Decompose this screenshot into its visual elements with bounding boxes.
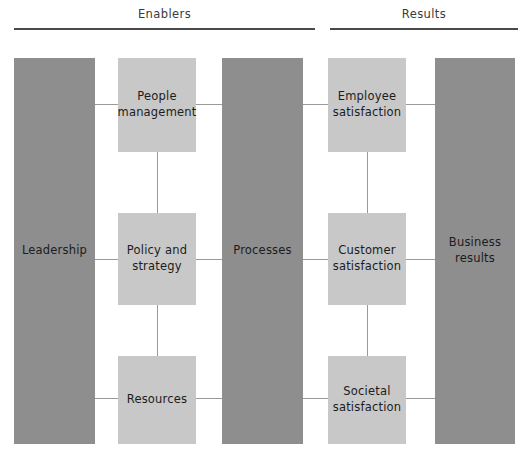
connector-societal-satisfaction-to-business-results: [406, 398, 435, 399]
node-policy-and-strategy-label: Policy and strategy: [127, 243, 187, 274]
section-header-enablers: Enablers: [14, 7, 315, 21]
node-societal-satisfaction-label: Societal satisfaction: [333, 384, 402, 415]
connector-processes-to-customer-satisfaction: [303, 259, 328, 260]
node-business-results[interactable]: Business results: [435, 58, 515, 444]
connector-resources-to-processes: [196, 398, 222, 399]
node-customer-satisfaction[interactable]: Customer satisfaction: [328, 213, 406, 305]
node-societal-satisfaction[interactable]: Societal satisfaction: [328, 356, 406, 444]
efqm-excellence-model-diagram: Enablers Results Leadership People manag…: [0, 0, 527, 463]
connector-processes-to-employee-satisfaction: [303, 104, 328, 105]
connector-processes-to-societal-satisfaction: [303, 398, 328, 399]
connector-leadership-to-policy-and-strategy: [95, 259, 118, 260]
section-rule-enablers: [14, 28, 315, 30]
node-business-results-label: Business results: [449, 235, 501, 266]
connector-employee-satisfaction-to-customer-satisfaction: [367, 152, 368, 213]
connector-employee-satisfaction-to-business-results: [406, 104, 435, 105]
connector-policy-and-strategy-to-resources: [157, 305, 158, 356]
node-employee-satisfaction-label: Employee satisfaction: [333, 89, 402, 120]
connector-leadership-to-resources: [95, 398, 118, 399]
section-header-results: Results: [330, 7, 518, 21]
node-policy-and-strategy[interactable]: Policy and strategy: [118, 213, 196, 305]
node-people-management-label: People management: [117, 89, 196, 120]
section-rule-results: [330, 28, 518, 30]
node-customer-satisfaction-label: Customer satisfaction: [333, 243, 402, 274]
node-processes-label: Processes: [233, 243, 292, 259]
connector-people-management-to-processes: [196, 104, 222, 105]
node-people-management[interactable]: People management: [118, 58, 196, 152]
connector-people-management-to-policy-and-strategy: [157, 152, 158, 213]
node-processes[interactable]: Processes: [222, 58, 303, 444]
node-leadership[interactable]: Leadership: [14, 58, 95, 444]
node-employee-satisfaction[interactable]: Employee satisfaction: [328, 58, 406, 152]
connector-customer-satisfaction-to-business-results: [406, 259, 435, 260]
connector-customer-satisfaction-to-societal-satisfaction: [367, 305, 368, 356]
connector-policy-and-strategy-to-processes: [196, 259, 222, 260]
node-resources[interactable]: Resources: [118, 356, 196, 444]
node-leadership-label: Leadership: [22, 243, 87, 259]
node-resources-label: Resources: [127, 392, 188, 408]
connector-leadership-to-people-management: [95, 104, 118, 105]
